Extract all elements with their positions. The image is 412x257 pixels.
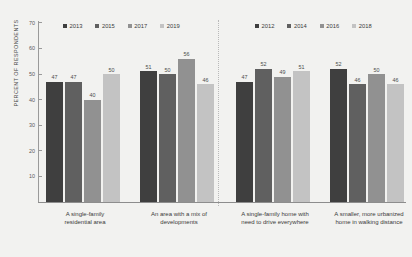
legend-item-2012[interactable]: 2012 [255,23,274,29]
bar-group-4: 52465046 [330,61,404,202]
legend-swatch-icon [63,24,67,28]
category-label-line2: need to drive everywhere [224,218,326,226]
category-label-4: A smaller, more urbanizedhome in walking… [318,210,412,226]
bar-value-label: 56 [184,51,190,57]
bar-rect [65,82,82,202]
panel-divider [218,20,220,206]
y-tick-20: 20 [28,147,42,155]
y-tick-10: 10 [28,172,42,180]
legend-swatch-icon [128,24,132,28]
bar-value-label: 47 [242,74,248,80]
bar-rect [159,74,176,202]
y-tick-label: 20 [29,147,35,155]
y-tick-label: 70 [29,19,35,27]
bar-value-label: 50 [109,67,115,73]
y-tick-mark [39,74,42,75]
bar-rect [293,71,310,202]
bar-rect [84,100,101,202]
legend-item-2013[interactable]: 2013 [63,23,82,29]
category-label-line2: developments [128,218,230,226]
y-tick-mark [39,150,42,151]
category-label-1: A single-familyresidential area [34,210,136,226]
bar-2015[interactable]: 50 [159,67,176,203]
bar-rect [387,84,404,202]
bar-value-label: 52 [336,61,342,67]
bar-chart: PERCENT OF RESPONDENTS 10203040506070 20… [0,0,412,257]
bar-2012[interactable]: 52 [330,61,347,202]
category-label-3: A single-family home withneed to drive e… [224,210,326,226]
y-tick-mark [39,48,42,49]
bar-value-label: 51 [299,64,305,70]
legend-label: 2015 [102,23,115,29]
bar-2017[interactable]: 40 [84,92,101,202]
bar-2019[interactable]: 46 [197,77,214,202]
bar-2016[interactable]: 49 [274,69,291,202]
bar-group-2: 51505646 [140,51,214,202]
bar-rect [255,69,272,202]
legend-right: 2012201420162018 [255,23,385,29]
bar-rect [140,71,157,202]
bar-value-label: 46 [393,77,399,83]
bar-2016[interactable]: 50 [368,67,385,203]
legend-label: 2018 [359,23,372,29]
y-tick-mark [39,125,42,126]
category-label-line2: residential area [34,218,136,226]
category-label-line2: home in walking distance [318,218,412,226]
x-axis-baseline [38,202,406,203]
bar-2014[interactable]: 46 [349,77,366,202]
bar-value-label: 47 [71,74,77,80]
y-tick-label: 40 [29,96,35,104]
bar-rect [103,74,120,202]
bar-value-label: 46 [355,77,361,83]
bar-2018[interactable]: 46 [387,77,404,202]
bar-rect [330,69,347,202]
bar-2018[interactable]: 51 [293,64,310,202]
bar-value-label: 50 [374,67,380,73]
bar-2014[interactable]: 52 [255,61,272,202]
legend-item-2016[interactable]: 2016 [320,23,339,29]
legend-left: 2013201520172019 [63,23,193,29]
bar-value-label: 50 [165,67,171,73]
legend-item-2015[interactable]: 2015 [95,23,114,29]
bar-rect [178,59,195,202]
legend-swatch-icon [95,24,99,28]
legend-item-2014[interactable]: 2014 [287,23,306,29]
category-label-line1: An area with a mix of [128,210,230,218]
y-tick-30: 30 [28,121,42,129]
category-label-line1: A single-family home with [224,210,326,218]
bar-value-label: 47 [52,74,58,80]
bar-value-label: 46 [203,77,209,83]
bar-2012[interactable]: 47 [236,74,253,202]
legend-swatch-icon [160,24,164,28]
y-tick-40: 40 [28,96,42,104]
bar-rect [197,84,214,202]
bar-2013[interactable]: 51 [140,64,157,202]
legend-label: 2012 [262,23,275,29]
bar-2015[interactable]: 47 [65,74,82,202]
y-tick-label: 10 [29,172,35,180]
y-tick-50: 50 [28,70,42,78]
bar-group-1: 47474050 [46,67,120,203]
legend-label: 2019 [167,23,180,29]
legend-item-2017[interactable]: 2017 [128,23,147,29]
legend-item-2018[interactable]: 2018 [352,23,371,29]
legend-item-2019[interactable]: 2019 [160,23,179,29]
legend-swatch-icon [255,24,259,28]
bar-value-label: 40 [90,92,96,98]
bar-value-label: 51 [146,64,152,70]
bar-2017[interactable]: 56 [178,51,195,202]
bar-value-label: 52 [261,61,267,67]
bar-group-3: 47524951 [236,61,310,202]
bar-2013[interactable]: 47 [46,74,63,202]
legend-label: 2014 [294,23,307,29]
y-tick-60: 60 [28,44,42,52]
legend-swatch-icon [352,24,356,28]
legend-swatch-icon [287,24,291,28]
bar-2019[interactable]: 50 [103,67,120,203]
category-label-line1: A single-family [34,210,136,218]
legend-label: 2016 [326,23,339,29]
bar-rect [236,82,253,202]
y-tick-label: 50 [29,70,35,78]
y-tick-mark [39,176,42,177]
y-tick-mark [39,22,42,23]
